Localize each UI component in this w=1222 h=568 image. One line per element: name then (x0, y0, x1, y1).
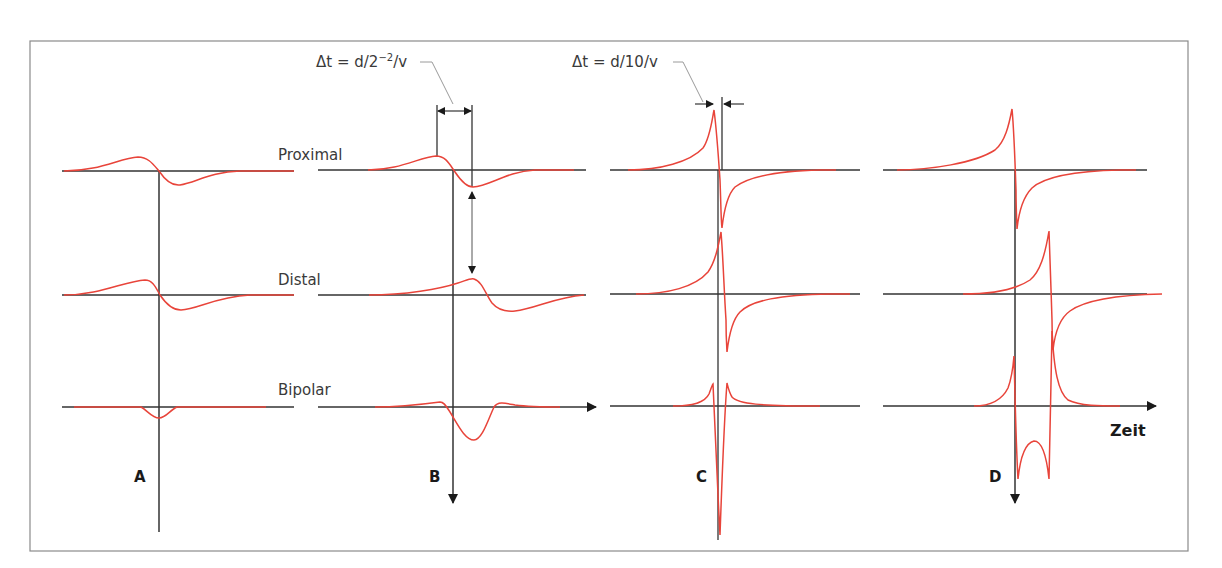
panel-label-a: A (134, 468, 146, 486)
nerve-conduction-diagram: Δt = d/2−2/v Δt = d/10/v Proximal Distal… (0, 0, 1222, 568)
signal-proximal-c (628, 110, 836, 228)
panel-label-b: B (429, 468, 440, 486)
panel-b (318, 105, 596, 503)
signal-distal-c (636, 232, 850, 352)
panel-c (610, 97, 860, 540)
formula-c-text: Δt = d/10/v (572, 53, 658, 71)
panel-a (62, 157, 294, 532)
time-axis-label: Zeit (1110, 421, 1146, 440)
row-label-distal: Distal (278, 271, 321, 289)
signal-proximal-d (897, 109, 1136, 229)
panel-label-d: D (989, 468, 1001, 486)
panel-d (883, 109, 1162, 503)
formula-c: Δt = d/10/v (572, 53, 703, 102)
row-label-proximal: Proximal (278, 146, 342, 164)
signal-distal-d (963, 231, 1162, 350)
signal-proximal-b (368, 156, 574, 187)
signal-bipolar-a (74, 407, 266, 418)
signal-bipolar-d (974, 331, 1120, 479)
row-label-bipolar: Bipolar (278, 381, 332, 399)
leader-line-b (420, 62, 453, 104)
leader-line-c (673, 62, 703, 102)
formula-b-text: Δt = d/2−2/v (316, 52, 407, 71)
panel-label-c: C (696, 468, 707, 486)
formula-b: Δt = d/2−2/v (316, 52, 453, 104)
